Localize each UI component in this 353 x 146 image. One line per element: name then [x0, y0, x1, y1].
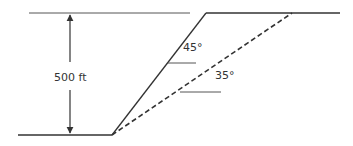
angle-label-45: 45° — [183, 42, 203, 53]
slope-45-line — [112, 13, 206, 135]
slope-diagram — [0, 0, 353, 146]
slope-35-dashed-line — [112, 13, 292, 135]
height-label: 500 ft — [54, 72, 86, 83]
angle-label-35: 35° — [215, 70, 235, 81]
